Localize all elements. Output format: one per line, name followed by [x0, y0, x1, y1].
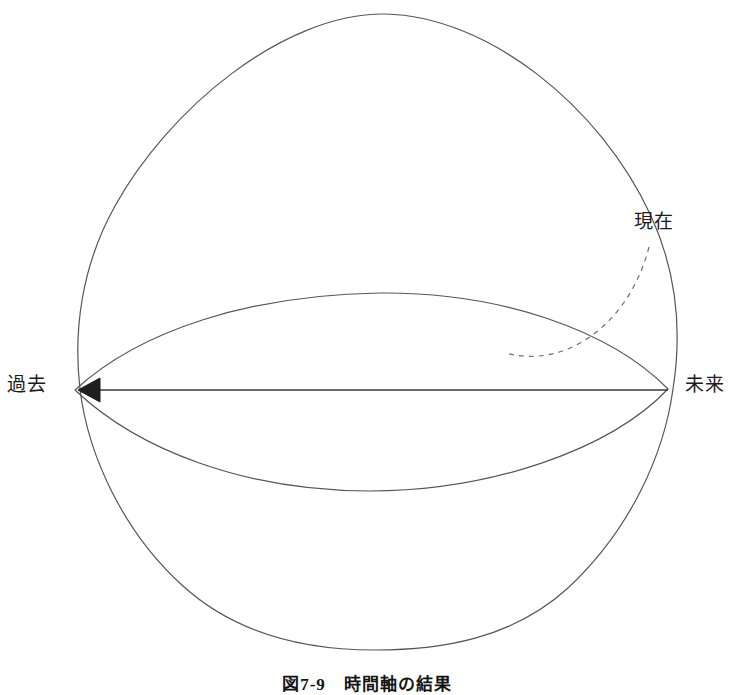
time-axis-arrow	[78, 378, 668, 402]
figure-caption: 図7-9 時間軸の結果	[0, 670, 734, 695]
lens-outline	[75, 293, 668, 491]
present-leader-dashed	[505, 247, 649, 356]
label-present: 現在	[634, 212, 674, 231]
label-future: 未来	[685, 375, 725, 394]
label-past: 過去	[7, 375, 47, 394]
